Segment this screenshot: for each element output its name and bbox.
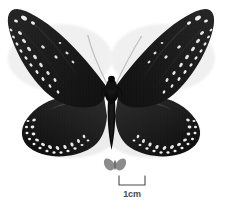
silhouette-icon-wrap	[102, 157, 128, 173]
scale-bar-graphic	[106, 175, 158, 188]
scale-bar-label: 1cm	[106, 189, 158, 199]
scale-bar: 1cm	[106, 175, 158, 201]
butterfly-silhouette-icon	[102, 157, 128, 173]
specimen-plate: 1cm	[0, 0, 225, 202]
